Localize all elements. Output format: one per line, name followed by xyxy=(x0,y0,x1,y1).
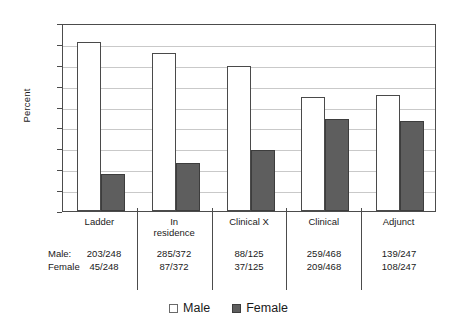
plot-area xyxy=(62,24,436,212)
annotation-male-adjunct: 139/247 xyxy=(367,248,431,259)
legend-label-female: Female xyxy=(246,301,288,315)
legend-item-male[interactable]: Male xyxy=(169,301,210,315)
bar-in-residence-male[interactable] xyxy=(152,53,176,211)
bar-group-adjunct xyxy=(362,25,437,211)
bar-chart-figure: Percent 90 80 70 60 50 40 30 20 10 0 xyxy=(0,0,457,332)
bar-group-clinical-x xyxy=(213,25,288,211)
y-axis-title: Percent xyxy=(21,66,32,146)
annotation-female-adjunct: 108/247 xyxy=(367,261,431,272)
x-category-label-adjunct: Adjunct xyxy=(361,216,436,227)
bar-adjunct-female[interactable] xyxy=(400,121,424,211)
bar-group-clinical xyxy=(287,25,362,211)
x-category-label-clinical-line1: Clinical xyxy=(286,216,361,227)
bar-group-in-residence xyxy=(138,25,213,211)
bar-adjunct-male[interactable] xyxy=(376,95,400,211)
annotation-female-clinical-x: 37/125 xyxy=(217,261,281,272)
annotation-row-label-male: Male: xyxy=(48,248,71,259)
x-category-label-clinical: Clinical xyxy=(286,216,361,227)
annotation-female-ladder: 45/248 xyxy=(72,261,136,272)
bar-ladder-female[interactable] xyxy=(101,174,125,211)
x-category-label-clinical-x: Clinical X xyxy=(212,216,287,227)
legend-item-female[interactable]: Female xyxy=(232,301,288,315)
bar-group-ladder xyxy=(63,25,138,211)
x-category-label-in-residence-line2: residence xyxy=(137,227,212,238)
annotation-female-in-residence: 87/372 xyxy=(142,261,206,272)
bar-clinical-male[interactable] xyxy=(301,97,325,211)
bar-in-residence-female[interactable] xyxy=(176,163,200,211)
gray-square-icon xyxy=(232,304,241,313)
annotation-male-in-residence: 285/372 xyxy=(142,248,206,259)
annotation-male-clinical-x: 88/125 xyxy=(217,248,281,259)
bar-clinical-x-male[interactable] xyxy=(227,66,251,211)
bar-clinical-x-female[interactable] xyxy=(251,150,275,211)
bar-clinical-female[interactable] xyxy=(325,119,349,211)
x-category-label-in-residence: In residence xyxy=(137,216,212,238)
x-category-label-clinical-x-line1: Clinical X xyxy=(212,216,287,227)
chart-legend: Male Female xyxy=(0,301,457,315)
x-category-label-ladder-line1: Ladder xyxy=(62,216,137,227)
bar-ladder-male[interactable] xyxy=(77,42,101,211)
x-category-label-adjunct-line1: Adjunct xyxy=(361,216,436,227)
legend-label-male: Male xyxy=(183,301,210,315)
y-tick-mark-0 xyxy=(57,212,62,213)
annotation-female-clinical: 209/468 xyxy=(292,261,356,272)
white-square-icon xyxy=(169,304,178,313)
x-category-label-in-residence-line1: In xyxy=(137,216,212,227)
x-category-label-ladder: Ladder xyxy=(62,216,137,227)
annotation-male-clinical: 259/468 xyxy=(292,248,356,259)
annotation-male-ladder: 203/248 xyxy=(72,248,136,259)
